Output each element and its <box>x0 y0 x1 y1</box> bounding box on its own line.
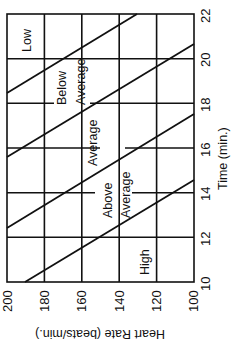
x-axis-title: Time (min.) <box>216 127 230 190</box>
zone-below-label-2: Average <box>74 59 88 105</box>
svg-text:160: 160 <box>74 290 89 312</box>
heart-rate-tick-labels: 200 180 160 140 120 100 <box>0 290 201 312</box>
zone-above-label-2: Average <box>119 172 133 218</box>
svg-text:22: 22 <box>198 9 213 23</box>
y-axis-title: Heart Rate (beats/min.) <box>35 327 165 340</box>
zone-below-label-1: Below <box>55 70 69 105</box>
heart-rate-vs-time-chart: Low Below Average Average Above Average … <box>0 0 232 340</box>
svg-text:100: 100 <box>186 290 201 312</box>
zone-high-label: High <box>138 249 152 275</box>
zone-average-label: Average <box>86 120 100 166</box>
zone-above-label-1: Above <box>101 183 115 218</box>
svg-text:120: 120 <box>149 290 164 312</box>
time-tick-labels: 10 12 14 16 18 20 22 <box>198 9 213 291</box>
svg-text:180: 180 <box>37 290 52 312</box>
svg-text:140: 140 <box>112 290 127 312</box>
svg-text:18: 18 <box>198 98 213 112</box>
boundary-low-below <box>7 14 137 93</box>
svg-text:16: 16 <box>198 143 213 157</box>
svg-text:14: 14 <box>198 187 213 201</box>
boundary-below-average <box>7 44 194 157</box>
svg-text:200: 200 <box>0 290 15 312</box>
svg-text:20: 20 <box>198 53 213 67</box>
svg-text:12: 12 <box>198 232 213 246</box>
svg-text:10: 10 <box>198 277 213 291</box>
zone-low-label: Low <box>20 28 34 52</box>
